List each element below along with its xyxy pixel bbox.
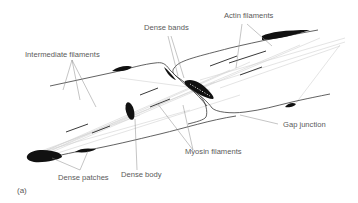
leader-lines: [52, 24, 278, 170]
label-intermediate-filaments: Intermediate filaments: [25, 51, 100, 59]
label-dense-body: Dense body: [121, 171, 162, 179]
label-actin-filaments: Actin filaments: [224, 12, 273, 20]
panel-label: (a): [17, 187, 27, 195]
label-dense-patches: Dense patches: [58, 174, 109, 182]
dense-bands: [185, 80, 214, 99]
smooth-muscle-diagram: Intermediate filaments Dense bands Actin…: [0, 0, 358, 203]
label-myosin-filaments: Myosin filaments: [185, 148, 242, 156]
label-dense-bands: Dense bands: [144, 24, 189, 32]
myosin-filaments: [66, 51, 266, 133]
label-gap-junction: Gap junction: [283, 121, 326, 129]
